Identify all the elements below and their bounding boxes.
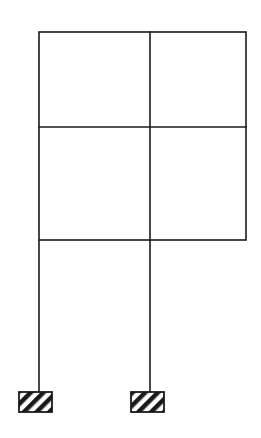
supports	[19, 392, 164, 412]
structural-frame-diagram	[0, 0, 261, 438]
frame-outline	[39, 32, 246, 240]
ground-columns	[39, 240, 150, 392]
frame	[39, 32, 246, 240]
fixed-support-icon	[19, 392, 52, 412]
fixed-support-icon	[131, 392, 164, 412]
